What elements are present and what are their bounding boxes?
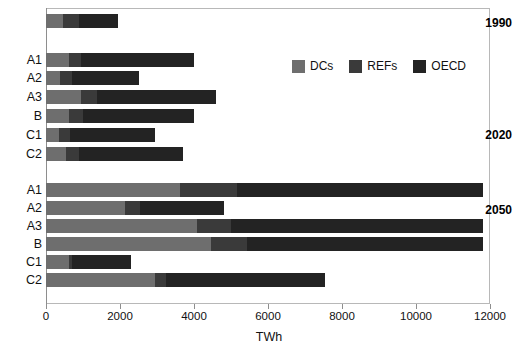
x-tick-label: 10000 [400,310,432,322]
bar-segment-dcs [46,219,197,233]
bar-segment-oecd [81,53,194,67]
legend-label: DCs [310,60,333,73]
bar-segment-refs [197,219,231,233]
x-tick [416,304,417,309]
bar-segment-refs [66,147,79,161]
bar-segment-dcs [46,183,180,197]
legend-swatch-refs-icon [349,60,362,73]
bar-segment-refs [59,128,70,142]
bar-segment-refs [69,53,81,67]
bar-segment-oecd [247,237,483,251]
bar-segment-refs [69,109,83,123]
x-tick [490,304,491,309]
bar-segment-oecd [79,14,118,28]
period-label-2050: 2050 [485,203,512,217]
bar-segment-dcs [46,90,81,104]
legend-item-dcs: DCs [292,60,333,73]
bar-segment-oecd [97,90,216,104]
bar-segment-oecd [231,219,483,233]
x-tick-label: 8000 [329,310,355,322]
bar-segment-dcs [46,273,155,287]
bar-segment-dcs [46,237,211,251]
bar-segment-oecd [166,273,325,287]
bar-segment-dcs [46,109,69,123]
x-tick [342,304,343,309]
x-tick [194,304,195,309]
bar-segment-dcs [46,14,63,28]
legend-label: OECD [431,60,466,73]
bar-segment-dcs [46,128,59,142]
category-label-a3: A3 [0,219,46,233]
legend-label: REFs [367,60,397,73]
bar-segment-refs [211,237,247,251]
category-label-a1: A1 [0,53,46,67]
bar-segment-oecd [83,109,194,123]
x-tick-label: 4000 [181,310,207,322]
chart-legend: DCsREFsOECD [292,60,466,73]
bar-segment-refs [81,90,97,104]
period-label-1990: 1990 [485,16,512,30]
x-tick-label: 12000 [474,310,506,322]
bar-segment-oecd [70,128,155,142]
category-label-b: B [0,237,46,251]
category-label-c2: C2 [0,273,46,287]
category-label-a2: A2 [0,201,46,215]
bar-chart: A1A2A3BC1C2A1A2A3BC1C2 02000400060008000… [0,0,526,360]
bar-segment-refs [125,201,140,215]
bar-segment-refs [60,71,72,85]
bar-segment-oecd [72,71,139,85]
category-label-a1: A1 [0,183,46,197]
x-axis-title: TWh [0,330,526,344]
bar-segment-oecd [237,183,483,197]
x-tick-label: 0 [43,310,49,322]
bar-segment-oecd [79,147,183,161]
category-label-c1: C1 [0,255,46,269]
x-axis-title-text: TWh [256,330,282,344]
bar-segment-dcs [46,255,69,269]
bar-segment-oecd [72,255,131,269]
bar-segment-dcs [46,53,69,67]
bar-segment-refs [180,183,237,197]
x-tick [120,304,121,309]
x-tick [46,304,47,309]
legend-item-refs: REFs [349,60,397,73]
category-label-c2: C2 [0,147,46,161]
bar-segment-dcs [46,201,125,215]
legend-item-oecd: OECD [413,60,466,73]
category-label-b: B [0,109,46,123]
x-tick-label: 6000 [255,310,281,322]
x-tick-label: 2000 [107,310,133,322]
legend-swatch-dcs-icon [292,60,305,73]
period-label-2020: 2020 [485,128,512,142]
category-label-a3: A3 [0,90,46,104]
bar-segment-refs [63,14,80,28]
category-label-c1: C1 [0,128,46,142]
bar-segment-oecd [140,201,224,215]
category-label-a2: A2 [0,71,46,85]
bar-segment-dcs [46,71,60,85]
x-tick [268,304,269,309]
bar-segment-refs [155,273,166,287]
bar-segment-dcs [46,147,66,161]
legend-swatch-oecd-icon [413,60,426,73]
